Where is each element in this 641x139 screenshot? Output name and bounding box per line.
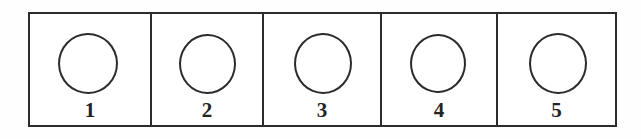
diagram-canvas: 1 2 3 4 5: [0, 0, 641, 139]
circle-wrap-4: [382, 33, 496, 92]
circle-icon: [409, 33, 467, 94]
circle-wrap-2: [152, 33, 262, 93]
cell-5[interactable]: 5: [498, 14, 615, 125]
circle-icon: [528, 32, 587, 94]
cell-1[interactable]: 1: [30, 14, 152, 125]
cell-label-1: 1: [30, 99, 150, 121]
cell-row: 1 2 3 4 5: [28, 12, 617, 127]
circle-wrap-3: [264, 33, 380, 94]
circle-wrap-1: [30, 33, 150, 94]
cell-3[interactable]: 3: [264, 14, 382, 125]
circle-icon: [57, 32, 118, 94]
circle-icon: [293, 32, 352, 94]
cell-4[interactable]: 4: [382, 14, 498, 125]
circle-wrap-5: [498, 33, 615, 94]
cell-label-2: 2: [152, 99, 262, 121]
cell-label-5: 5: [498, 99, 615, 121]
cell-2[interactable]: 2: [152, 14, 264, 125]
cell-label-3: 3: [264, 99, 380, 121]
circle-icon: [178, 34, 236, 95]
cell-label-4: 4: [382, 99, 496, 121]
